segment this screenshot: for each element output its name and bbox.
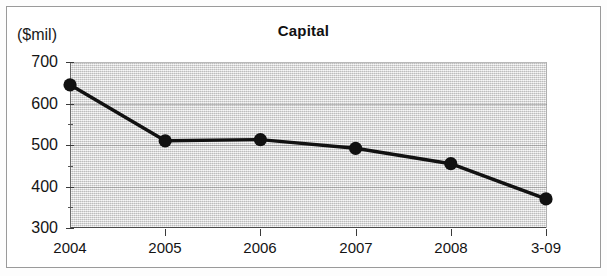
data-series-layer [0,0,607,276]
data-point-2008 [444,157,457,170]
data-point-2006 [254,133,267,146]
data-point-2005 [159,134,172,147]
series-markers-capital [63,78,552,205]
data-point-2004 [63,78,76,91]
data-point-3-09 [539,192,552,205]
data-point-2007 [349,142,362,155]
chart-figure: ($mil) Capital 700600500400300 200420052… [0,0,607,276]
series-line-capital [70,85,546,199]
